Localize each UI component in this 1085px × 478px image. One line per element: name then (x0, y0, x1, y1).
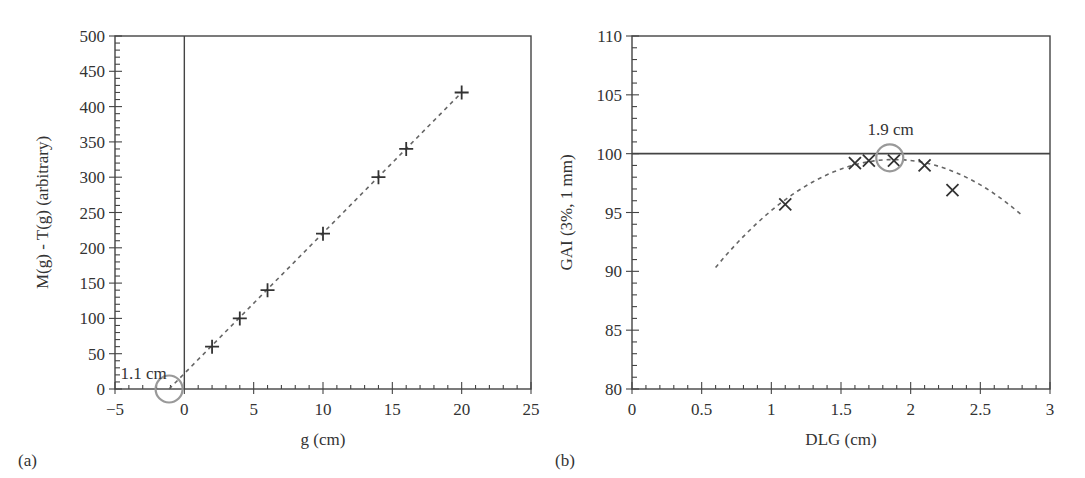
x-tick-label: 3 (1046, 400, 1055, 419)
plot-frame (632, 36, 1050, 389)
y-tick-label: 250 (80, 204, 106, 223)
plot-frame (115, 36, 531, 389)
x-tick-label: −5 (106, 400, 124, 419)
x-marker-icon (919, 159, 931, 171)
x-tick-label: 2.5 (970, 400, 991, 419)
y-tick-label: 80 (605, 380, 622, 399)
x-tick-label: 10 (315, 400, 332, 419)
x-marker-icon (888, 155, 900, 167)
x-marker-icon (946, 184, 958, 196)
y-tick-label: 0 (97, 380, 106, 399)
x-tick-label: 20 (453, 400, 470, 419)
x-axis-title: DLG (cm) (805, 430, 876, 449)
y-axis-title: GAI (3%, 1 mm) (557, 154, 576, 270)
y-tick-label: 200 (80, 239, 106, 258)
y-axis-title: M(g) - T(g) (arbitrary) (33, 136, 52, 289)
y-tick-label: 100 (597, 145, 623, 164)
panel-label: (a) (18, 451, 37, 470)
y-tick-label: 150 (80, 274, 106, 293)
x-tick-label: 0 (180, 400, 189, 419)
panel-label: (b) (555, 451, 575, 470)
y-tick-label: 110 (597, 27, 622, 46)
y-tick-label: 350 (80, 133, 106, 152)
x-tick-label: 25 (523, 400, 540, 419)
x-tick-label: 0 (628, 400, 637, 419)
plus-marker-icon (205, 340, 219, 354)
y-tick-label: 95 (605, 204, 622, 223)
y-tick-label: 500 (80, 27, 106, 46)
y-tick-label: 300 (80, 168, 106, 187)
y-tick-label: 450 (80, 62, 106, 81)
x-tick-label: 0.5 (691, 400, 712, 419)
y-tick-label: 50 (88, 345, 105, 364)
x-tick-label: 1 (767, 400, 776, 419)
x-marker-icon (849, 157, 861, 169)
y-tick-label: 105 (597, 86, 623, 105)
chart-panel-a: −505101520250501001502002503003504004505… (18, 27, 540, 470)
fit-curve-dashed (716, 160, 1023, 268)
y-tick-label: 85 (605, 321, 622, 340)
annotation-label: 1.9 cm (867, 120, 913, 139)
x-tick-label: 5 (249, 400, 258, 419)
y-tick-label: 400 (80, 98, 106, 117)
chart-panel-b: 00.511.522.5380859095100105110DLG (cm)GA… (555, 27, 1054, 470)
x-axis-title: g (cm) (301, 430, 346, 449)
annotation-label: 1.1 cm (121, 364, 167, 383)
y-tick-label: 100 (80, 309, 106, 328)
x-tick-label: 2 (906, 400, 915, 419)
y-tick-label: 90 (605, 262, 622, 281)
fit-line-dashed (169, 92, 462, 389)
x-tick-label: 15 (384, 400, 401, 419)
x-tick-label: 1.5 (830, 400, 851, 419)
figure: −505101520250501001502002503003504004505… (0, 0, 1085, 478)
